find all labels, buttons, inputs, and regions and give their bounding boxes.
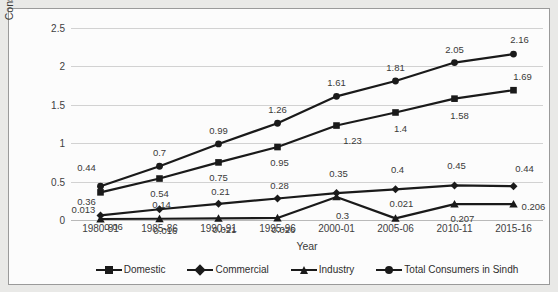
data-point-label: 0.4 — [391, 164, 404, 175]
chart-legend: DomesticCommercialIndustryTotal Consumer… — [71, 260, 543, 278]
data-point-marker — [333, 122, 340, 129]
data-point-label: 1.26 — [268, 104, 287, 115]
y-axis-title: Consumers (in Million) — [3, 0, 15, 43]
data-point-label: 2.05 — [445, 43, 464, 54]
y-axis-tick-label: 0.5 — [27, 176, 65, 187]
data-point-marker — [333, 93, 340, 100]
data-point-marker — [97, 189, 104, 196]
data-point-label: 1.81 — [386, 61, 405, 72]
data-point-label: 0.3 — [336, 209, 349, 220]
data-point-marker — [510, 87, 517, 94]
data-point-marker — [392, 78, 399, 85]
data-point-label: 0.45 — [447, 160, 466, 171]
y-axis-tick-label: 0 — [27, 215, 65, 226]
data-point-label: 1.4 — [394, 123, 407, 134]
legend-label: Total Consumers in Sindh — [404, 264, 518, 275]
legend-label: Commercial — [215, 264, 268, 275]
legend-label: Industry — [319, 264, 355, 275]
data-point-marker — [392, 185, 400, 193]
data-point-label: 1.69 — [513, 71, 532, 82]
data-point-marker — [451, 95, 458, 102]
data-point-marker — [215, 159, 222, 166]
data-point-marker — [215, 141, 222, 148]
data-point-label: 0.013 — [72, 204, 96, 215]
data-point-marker — [156, 175, 163, 182]
legend-item-domestic[interactable]: Domestic — [96, 264, 166, 275]
data-point-marker — [510, 182, 518, 190]
y-axis-tick-label: 1 — [27, 138, 65, 149]
y-axis-tick-label: 2 — [27, 61, 65, 72]
data-point-label: 0.021 — [390, 198, 414, 209]
x-axis-title: Year — [71, 240, 543, 252]
data-point-label: 0.99 — [209, 124, 228, 135]
legend-label: Domestic — [124, 264, 166, 275]
data-point-marker — [510, 51, 517, 58]
chart-container: Consumers (in Million) 00.511.522.5 0.36… — [8, 8, 550, 285]
data-point-label: 1.61 — [327, 77, 346, 88]
data-point-label: 0.7 — [153, 147, 166, 158]
data-point-marker — [274, 144, 281, 151]
data-point-marker — [451, 181, 459, 189]
x-axis-ticks: 1980-811985-861990-911995-962000-012005-… — [71, 223, 543, 239]
data-point-label: 0.28 — [270, 180, 289, 191]
x-axis-tick-label: 2015-16 — [479, 223, 549, 234]
data-point-label: 0.75 — [209, 172, 228, 183]
data-point-marker — [274, 120, 281, 127]
data-point-label: 0.44 — [77, 162, 96, 173]
data-point-label: 1.23 — [343, 134, 362, 145]
data-point-label: 0.44 — [515, 163, 534, 174]
data-point-label: 0.14 — [152, 199, 171, 210]
data-point-marker — [392, 109, 399, 116]
data-point-label: 0.21 — [211, 185, 230, 196]
data-point-label: 2.16 — [510, 34, 529, 45]
data-point-label: 0.54 — [150, 187, 169, 198]
plot-area: 0.360.540.750.951.231.41.581.690.060.140… — [71, 28, 543, 220]
legend-marker-icon — [187, 264, 213, 275]
data-point-marker — [451, 59, 458, 66]
data-point-label: 0.35 — [329, 168, 348, 179]
legend-marker-icon — [376, 264, 402, 275]
data-point-label: 0.95 — [270, 157, 289, 168]
legend-item-industry[interactable]: Industry — [291, 264, 355, 275]
y-axis-tick-label: 1.5 — [27, 99, 65, 110]
data-point-label: 1.58 — [450, 109, 469, 120]
legend-marker-icon — [291, 264, 317, 275]
data-point-marker — [274, 194, 282, 202]
y-axis-tick-label: 2.5 — [27, 23, 65, 34]
data-point-marker — [215, 200, 223, 208]
data-point-marker — [97, 183, 104, 190]
legend-item-total-consumers-in-sindh[interactable]: Total Consumers in Sindh — [376, 264, 518, 275]
data-point-label: 0.206 — [522, 201, 546, 212]
data-point-marker — [156, 163, 163, 170]
legend-marker-icon — [96, 264, 122, 275]
data-point-label: 0.207 — [451, 213, 475, 224]
series-lines — [71, 28, 543, 220]
legend-item-commercial[interactable]: Commercial — [187, 264, 268, 275]
